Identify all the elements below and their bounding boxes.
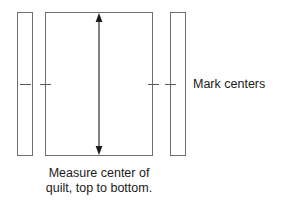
quilt-border-diagram: Mark centers Measure center of quilt, to… [0, 0, 283, 200]
caption-line-1: Measure center of [26, 166, 172, 181]
measure-caption: Measure center of quilt, top to bottom. [26, 166, 172, 196]
center-tick-left-strip [20, 84, 31, 85]
caption-line-2: quilt, top to bottom. [26, 181, 172, 196]
vertical-measurement-arrow-icon [88, 10, 110, 158]
center-tick-right-strip [165, 84, 176, 85]
mark-centers-label: Mark centers [193, 77, 265, 92]
center-tick-quilt-left [40, 84, 51, 85]
center-tick-quilt-right [148, 84, 159, 85]
